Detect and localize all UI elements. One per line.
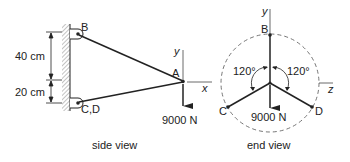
caption-end-view: end view — [247, 140, 290, 151]
center-point — [269, 82, 272, 85]
caption-side-view: side view — [92, 140, 137, 151]
dimension-40cm: 40 cm — [15, 51, 45, 62]
member-od — [270, 83, 312, 107]
diagram-canvas — [0, 0, 350, 162]
label-c-end: C — [219, 106, 227, 117]
load-label-side: 9000 N — [162, 115, 197, 126]
angle-label-right: 120° — [287, 66, 310, 77]
point-b — [268, 33, 272, 37]
label-b-side: B — [81, 22, 88, 33]
member-acd — [79, 82, 183, 102]
load-label-end: 9000 N — [251, 112, 286, 123]
side-view — [46, 24, 212, 111]
label-d-end: D — [315, 106, 323, 117]
angle-label-left: 120° — [233, 66, 256, 77]
label-y-end: y — [262, 6, 268, 17]
label-cd-side: C,D — [81, 104, 100, 115]
wall — [62, 24, 70, 111]
label-a: A — [172, 68, 179, 79]
label-y-side: y — [174, 46, 180, 57]
point-d — [310, 105, 314, 109]
member-ab — [79, 35, 183, 81]
member-oc — [228, 83, 270, 107]
label-x-side: x — [202, 83, 208, 94]
label-z-end: z — [328, 84, 334, 95]
label-b-end: B — [261, 24, 268, 35]
joint-a — [181, 80, 185, 84]
dimension-lines — [46, 32, 62, 103]
dimension-20cm: 20 cm — [15, 87, 45, 98]
